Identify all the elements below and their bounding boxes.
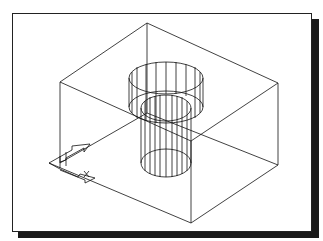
ucs-axis-icon	[49, 144, 95, 183]
through-hole-cylinder	[141, 95, 191, 177]
wireframe-drawing	[0, 0, 323, 241]
